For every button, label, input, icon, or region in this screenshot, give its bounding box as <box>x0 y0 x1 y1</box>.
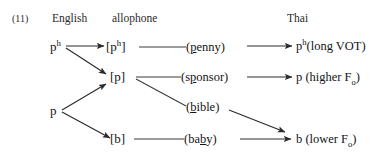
allophone-b: [b] <box>110 132 125 145</box>
example-sponsor-post: onsor <box>196 70 224 84</box>
column-header-thai: Thai <box>287 13 308 25</box>
thai-lower-f0-text: (lower F <box>302 132 348 146</box>
english-input-ph: ph <box>50 40 61 53</box>
thai-outcome-long-vot: ph(long VOT) <box>296 40 366 53</box>
arrow-p-to-b-allophone <box>62 112 110 138</box>
thai-outcome-higher-f0: p (higher Fo) <box>296 71 360 84</box>
example-baby-close: ) <box>212 132 216 146</box>
example-penny-close: ) <box>221 40 225 54</box>
arrow-p-to-p-allophone <box>62 84 106 110</box>
thai-long-vot-text: (long VOT) <box>307 39 366 53</box>
arrow-bible-to-lower-f0 <box>229 110 285 132</box>
arrow-ph-to-p-allophone <box>66 48 106 74</box>
example-baby-pre: ba <box>188 132 200 146</box>
thai-outcome-lower-f0: b (lower Fo) <box>296 133 357 146</box>
example-sponsor-close: ) <box>224 70 228 84</box>
allophone-ph-open: [p <box>106 39 117 54</box>
thai-higher-f0-tail: ) <box>356 70 360 84</box>
english-input-p: p <box>50 104 57 117</box>
english-input-ph-superscript: h <box>57 38 61 48</box>
allophone-p: [p] <box>110 70 125 83</box>
example-bible-post: ible <box>196 100 215 114</box>
line-p-allophone-to-bible <box>136 79 186 106</box>
thai-lower-f0-tail: ) <box>352 132 356 146</box>
example-penny-post: enny <box>196 40 220 54</box>
allophone-ph-close: ] <box>121 39 125 54</box>
example-bible-close: ) <box>215 100 219 114</box>
example-word-baby: (baby) <box>184 133 217 146</box>
example-word-bible: (bible) <box>186 101 219 114</box>
column-header-english: English <box>52 13 87 25</box>
thai-higher-f0-text: (higher F <box>302 70 351 84</box>
example-word-penny: (penny) <box>186 41 225 54</box>
example-number: (11) <box>12 14 28 24</box>
column-header-allophone: allophone <box>112 13 157 25</box>
english-input-p-base: p <box>50 103 57 118</box>
allophone-ph: [ph] <box>106 40 126 53</box>
example-word-sponsor: (sponsor) <box>181 71 228 84</box>
linguistics-flow-diagram: (11) English allophone Thai ph p [ph] [p… <box>0 0 375 158</box>
